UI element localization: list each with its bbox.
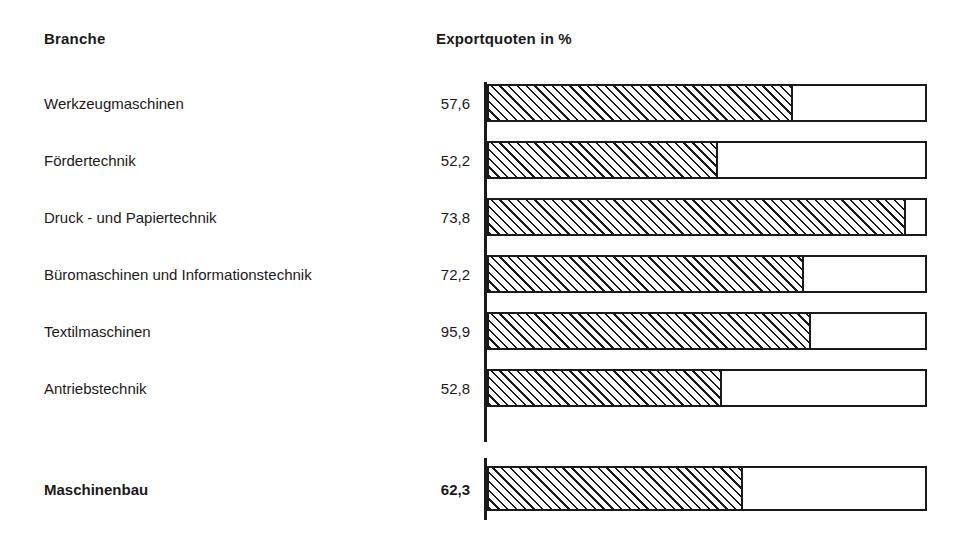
bar-fill <box>489 371 722 405</box>
table-row: Druck - und Papiertechnik 73,8 <box>0 198 970 236</box>
table-row: Fördertechnik 52,2 <box>0 141 970 179</box>
bar-track <box>487 369 927 407</box>
bar-track-total <box>487 466 927 511</box>
row-label: Büromaschinen und Informationstechnik <box>44 266 312 283</box>
bar-fill <box>489 143 718 177</box>
bar-fill <box>489 200 906 234</box>
bar-fill <box>489 86 793 120</box>
row-value: 57,6 <box>340 95 470 112</box>
table-row: Werkzeugmaschinen 57,6 <box>0 84 970 122</box>
column-header-exportquoten: Exportquoten in % <box>436 30 572 47</box>
column-header-branche: Branche <box>44 30 105 47</box>
row-value: 52,8 <box>340 380 470 397</box>
bar-track <box>487 312 927 350</box>
table-row: Textilmaschinen 95,9 <box>0 312 970 350</box>
bar-track <box>487 141 927 179</box>
export-quota-chart: Branche Exportquoten in % Werkzeugmaschi… <box>0 0 970 536</box>
table-row-total: Maschinenbau 62,3 <box>0 466 970 511</box>
bar-track <box>487 198 927 236</box>
row-label: Druck - und Papiertechnik <box>44 209 217 226</box>
row-value: 73,8 <box>340 209 470 226</box>
bar-track <box>487 84 927 122</box>
row-value-total: 62,3 <box>340 480 470 497</box>
table-row: Antriebstechnik 52,8 <box>0 369 970 407</box>
row-label: Textilmaschinen <box>44 323 151 340</box>
row-label-total: Maschinenbau <box>44 480 148 497</box>
bar-track <box>487 255 927 293</box>
row-label: Antriebstechnik <box>44 380 147 397</box>
table-row: Büromaschinen und Informationstechnik 72… <box>0 255 970 293</box>
row-value: 72,2 <box>340 266 470 283</box>
row-value: 52,2 <box>340 152 470 169</box>
bar-fill-total <box>489 468 743 509</box>
row-label: Werkzeugmaschinen <box>44 95 184 112</box>
row-value: 95,9 <box>340 323 470 340</box>
bar-fill <box>489 314 811 348</box>
row-label: Fördertechnik <box>44 152 136 169</box>
bar-fill <box>489 257 804 291</box>
